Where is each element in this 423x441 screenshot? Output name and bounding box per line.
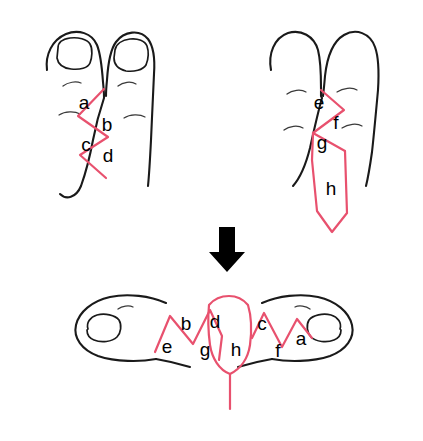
result-left-toe-lower-edge xyxy=(156,359,190,367)
panel-plantar-view: e f g h xyxy=(270,32,378,232)
flap-label-d: d xyxy=(103,145,114,166)
dorsal-right-toenail xyxy=(114,39,148,71)
panel-separated-result: e b d g h c f a xyxy=(75,295,352,409)
result-central-flap-h xyxy=(208,296,251,374)
flap-label-e: e xyxy=(162,336,173,357)
figure-root: a b c d e f g h xyxy=(0,0,423,441)
downward-arrow-icon xyxy=(209,227,245,272)
flap-label-e: e xyxy=(314,92,325,113)
flap-label-f: f xyxy=(275,340,281,361)
flap-label-d: d xyxy=(210,311,221,332)
dorsal-left-toenail xyxy=(57,38,92,70)
flap-label-h: h xyxy=(326,178,337,199)
flap-label-f: f xyxy=(333,112,339,133)
flap-label-b: b xyxy=(181,313,192,334)
flap-label-c: c xyxy=(81,134,91,155)
panel-dorsal-view: a b c d xyxy=(47,32,155,197)
flap-label-c: c xyxy=(257,313,267,334)
flap-label-g: g xyxy=(200,339,211,360)
flap-label-g: g xyxy=(317,132,328,153)
flap-label-h: h xyxy=(231,339,242,360)
diagram-canvas: a b c d e f g h xyxy=(0,0,423,441)
plantar-right-toe-outline xyxy=(323,32,379,186)
result-left-toenail xyxy=(87,314,121,341)
flap-label-a: a xyxy=(79,92,90,113)
flap-label-a: a xyxy=(296,328,307,349)
flap-label-b: b xyxy=(102,114,113,135)
transition-arrow-group xyxy=(209,227,245,272)
